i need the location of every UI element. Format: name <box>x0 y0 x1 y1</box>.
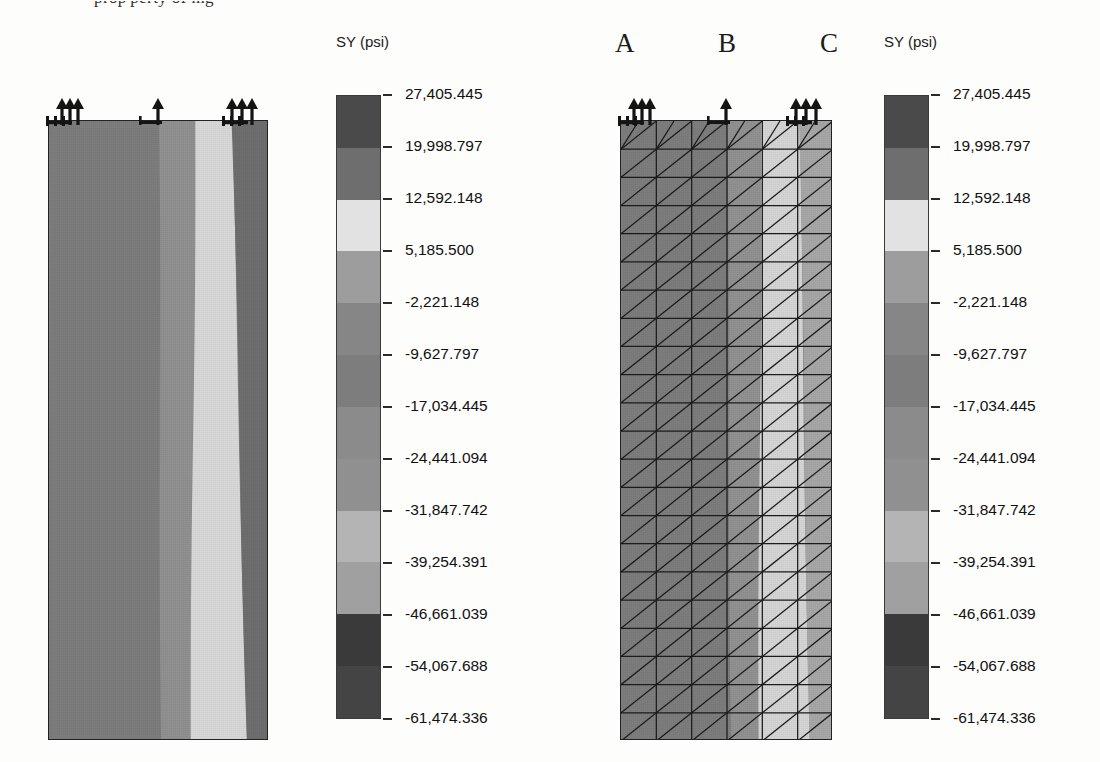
colorbar-tick-label: 5,185.500 <box>953 241 1022 259</box>
colorbar-tick-label: -17,034.445 <box>405 397 488 415</box>
colorbar-band <box>337 96 380 148</box>
tick-dash-icon <box>931 718 940 720</box>
tick-dash-icon <box>383 198 392 200</box>
colorbar-tick-label: 27,405.445 <box>953 85 1031 103</box>
tick-dash-icon <box>931 458 940 460</box>
column-label-a: A <box>615 28 635 59</box>
colorbar-right-strip <box>884 95 929 719</box>
colorbar-tick-label: -24,441.094 <box>953 449 1036 467</box>
colorbar-left-ticks: 27,405.44519,998.79712,592.1485,185.500-… <box>381 95 601 719</box>
colorbar-tick-label: 19,998.797 <box>953 137 1031 155</box>
tick-dash-icon <box>931 94 940 96</box>
colorbar-tick-label: -24,441.094 <box>405 449 488 467</box>
colorbar-band <box>885 614 928 666</box>
tick-dash-icon <box>931 250 940 252</box>
colorbar-tick-label: -2,221.148 <box>953 293 1027 311</box>
tick-dash-icon <box>383 146 392 148</box>
colorbar-band <box>337 355 380 407</box>
colorbar-tick-label: -17,034.445 <box>953 397 1036 415</box>
colorbar-tick-label: -46,661.039 <box>405 605 488 623</box>
column-label-b: B <box>718 28 736 59</box>
colorbar-band <box>337 200 380 252</box>
colorbar-tick-label: 19,998.797 <box>405 137 483 155</box>
tick-dash-icon <box>931 354 940 356</box>
top-text-fragment: prop'perty of mg <box>94 0 214 8</box>
tick-dash-icon <box>931 198 940 200</box>
colorbar-band <box>337 614 380 666</box>
tick-dash-icon <box>383 510 392 512</box>
column-label-c: C <box>820 28 838 59</box>
tick-dash-icon <box>931 302 940 304</box>
contour-band <box>49 121 161 740</box>
tick-dash-icon <box>931 562 940 564</box>
figure-canvas: prop'perty of mg SY (psi) 27,405.44519,9… <box>0 0 1100 762</box>
colorbar-band <box>885 303 928 355</box>
tick-dash-icon <box>383 302 392 304</box>
tick-dash-icon <box>383 562 392 564</box>
colorbar-band <box>337 251 380 303</box>
colorbar-band <box>885 355 928 407</box>
tick-dash-icon <box>383 354 392 356</box>
colorbar-tick-label: 12,592.148 <box>953 189 1031 207</box>
colorbar-band <box>337 303 380 355</box>
contour-band <box>159 121 196 740</box>
tick-dash-icon <box>931 614 940 616</box>
tick-dash-icon <box>931 666 940 668</box>
colorbar-tick-label: -9,627.797 <box>405 345 479 363</box>
colorbar-tick-label: -39,254.391 <box>405 553 488 571</box>
colorbar-tick-label: -46,661.039 <box>953 605 1036 623</box>
colorbar-left-title: SY (psi) <box>336 33 389 50</box>
colorbar-tick-label: -54,067.688 <box>953 657 1036 675</box>
colorbar-right-title: SY (psi) <box>884 33 937 50</box>
colorbar-band <box>885 511 928 563</box>
colorbar-band <box>337 562 380 614</box>
colorbar-band <box>885 148 928 200</box>
colorbar-band <box>337 407 380 459</box>
colorbar-tick-label: 12,592.148 <box>405 189 483 207</box>
colorbar-tick-label: -39,254.391 <box>953 553 1036 571</box>
tick-dash-icon <box>383 406 392 408</box>
tick-dash-icon <box>931 146 940 148</box>
colorbar-band <box>885 200 928 252</box>
colorbar-tick-label: 27,405.445 <box>405 85 483 103</box>
colorbar-band <box>337 666 380 718</box>
colorbar-right-ticks: 27,405.44519,998.79712,592.1485,185.500-… <box>929 95 1100 719</box>
tick-dash-icon <box>383 250 392 252</box>
right-model-contour-area <box>620 120 832 740</box>
colorbar-band <box>885 666 928 718</box>
colorbar-band <box>885 96 928 148</box>
colorbar-band <box>337 148 380 200</box>
colorbar-band <box>337 511 380 563</box>
colorbar-band <box>885 562 928 614</box>
tick-dash-icon <box>383 458 392 460</box>
tick-dash-icon <box>383 94 392 96</box>
left-contour-svg <box>49 121 268 740</box>
tick-dash-icon <box>931 406 940 408</box>
colorbar-band <box>885 407 928 459</box>
tick-dash-icon <box>383 718 392 720</box>
colorbar-tick-label: -31,847.742 <box>405 501 488 519</box>
colorbar-band <box>337 459 380 511</box>
colorbar-band <box>885 459 928 511</box>
right-contour-mesh-svg <box>621 121 832 740</box>
tick-dash-icon <box>931 510 940 512</box>
tick-dash-icon <box>383 666 392 668</box>
colorbar-tick-label: -2,221.148 <box>405 293 479 311</box>
colorbar-left-strip <box>336 95 381 719</box>
colorbar-tick-label: -9,627.797 <box>953 345 1027 363</box>
colorbar-tick-label: -61,474.336 <box>953 709 1036 727</box>
colorbar-tick-label: 5,185.500 <box>405 241 474 259</box>
colorbar-tick-label: -61,474.336 <box>405 709 488 727</box>
tick-dash-icon <box>383 614 392 616</box>
left-model-contour-area <box>48 120 268 740</box>
colorbar-tick-label: -31,847.742 <box>953 501 1036 519</box>
colorbar-band <box>885 251 928 303</box>
colorbar-tick-label: -54,067.688 <box>405 657 488 675</box>
